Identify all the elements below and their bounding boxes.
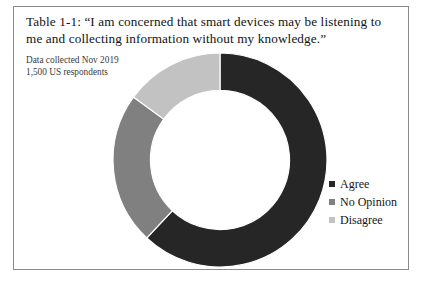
legend-label-no-opinion: No Opinion [340, 195, 397, 209]
legend-item-agree[interactable]: Agree [329, 175, 409, 192]
figure-panel: Table 1-1: “I am concerned that smart de… [13, 6, 409, 270]
donut-chart-svg [13, 49, 396, 270]
chart-legend: Agree No Opinion Disagree [329, 175, 409, 229]
legend-swatch-disagree [329, 217, 335, 223]
donut-chart [13, 49, 396, 270]
legend-swatch-no-opinion [329, 199, 335, 205]
legend-item-no-opinion[interactable]: No Opinion [329, 193, 409, 210]
donut-slice-group [113, 53, 327, 267]
legend-label-disagree: Disagree [340, 213, 383, 227]
legend-label-agree: Agree [340, 177, 369, 191]
legend-swatch-agree [329, 181, 335, 187]
legend-item-disagree[interactable]: Disagree [329, 211, 409, 228]
figure-title: Table 1-1: “I am concerned that smart de… [26, 13, 398, 47]
